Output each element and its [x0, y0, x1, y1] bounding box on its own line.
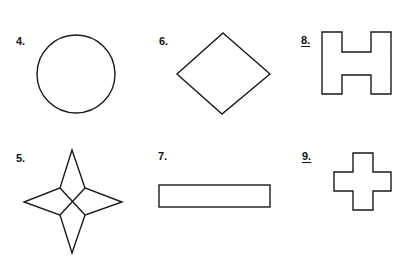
shapes-canvas — [0, 0, 407, 270]
diamond-shape — [177, 33, 270, 114]
rectangle-shape — [159, 185, 270, 207]
circle-shape — [37, 35, 115, 113]
h-shape — [322, 32, 391, 94]
four-pointed-star-shape — [24, 150, 122, 253]
plus-cross-shape — [334, 153, 391, 210]
